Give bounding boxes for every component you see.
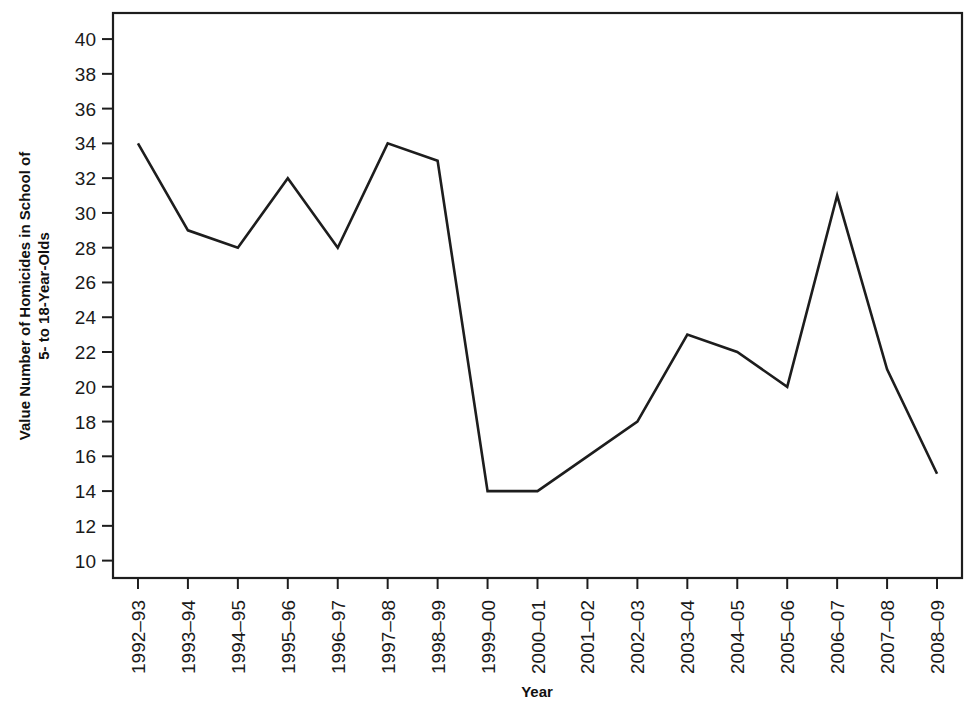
- x-tick-label: 2005–06: [777, 600, 798, 674]
- chart-figure: 10121416182022242628303234363840 1992–93…: [0, 0, 973, 714]
- x-axis-title: Year: [521, 683, 553, 700]
- y-tick-label: 30: [75, 203, 96, 224]
- x-tick-label: 2007–08: [877, 600, 898, 674]
- x-tick-label: 1995–96: [278, 600, 299, 674]
- y-tick-label: 22: [75, 342, 96, 363]
- y-tick-label: 24: [75, 307, 97, 328]
- y-tick-label: 12: [75, 516, 96, 537]
- x-tick-label: 1999–00: [478, 600, 499, 674]
- x-tick-label: 1996–97: [328, 600, 349, 674]
- y-tick-label: 16: [75, 446, 96, 467]
- y-tick-label: 20: [75, 377, 96, 398]
- y-tick-label: 10: [75, 551, 96, 572]
- x-tick-label: 1998–99: [428, 600, 449, 674]
- y-tick-label: 34: [75, 133, 97, 154]
- y-tick-label: 14: [75, 481, 97, 502]
- y-tick-label: 32: [75, 168, 96, 189]
- x-tick-label: 1994–95: [228, 600, 249, 674]
- x-tick-label: 2001–02: [577, 600, 598, 674]
- y-tick-label: 38: [75, 64, 96, 85]
- x-tick-label: 2003–04: [677, 600, 698, 674]
- y-tick-label: 40: [75, 29, 96, 50]
- y-axis-title-line-2: 5- to 18-Year-Olds: [35, 232, 52, 360]
- x-tick-label: 1993–94: [178, 600, 199, 674]
- x-tick-label: 2006–07: [827, 600, 848, 674]
- x-tick-label: 2004–05: [727, 600, 748, 674]
- y-tick-label: 36: [75, 99, 96, 120]
- line-chart: 10121416182022242628303234363840 1992–93…: [0, 0, 973, 714]
- x-tick-label: 2008–09: [927, 600, 948, 674]
- y-axis-title-line-1: Value Number of Homicides in School of: [16, 151, 33, 440]
- x-tick-label: 1997–98: [378, 600, 399, 674]
- x-tick-label: 2000–01: [528, 600, 549, 674]
- x-tick-label: 2002–03: [627, 600, 648, 674]
- x-tick-label: 1992–93: [128, 600, 149, 674]
- y-tick-label: 28: [75, 238, 96, 259]
- y-tick-label: 26: [75, 272, 96, 293]
- y-tick-label: 18: [75, 412, 96, 433]
